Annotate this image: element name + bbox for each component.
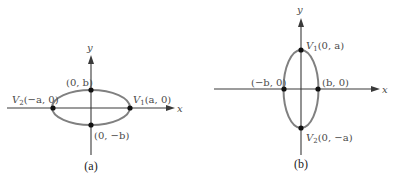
panel-a-x-label: x <box>177 103 183 114</box>
panel-a-x-arrow-icon <box>166 105 175 111</box>
panel-a-y-label: y <box>86 42 93 53</box>
panel-b-left-label: (−b, 0) <box>251 77 286 88</box>
panel-b-vertex-v1 <box>298 47 303 52</box>
panel-a-v1-label: V1(a, 0) <box>133 94 171 107</box>
svg-text:V1(0, a): V1(0, a) <box>306 40 344 53</box>
panel-a-bottom-label: (0, −b) <box>94 130 129 141</box>
panel-b-point-right <box>315 86 320 91</box>
panel-b-x-arrow-icon <box>371 86 380 92</box>
panel-b-right-label: (b, 0) <box>322 77 349 88</box>
panel-b-v1-label: V1(0, a) <box>306 40 344 53</box>
panel-a-vertex-v2 <box>50 105 55 110</box>
panel-a-caption: (a) <box>84 159 97 173</box>
panel-b-v2-label: V2(0, −a) <box>306 132 353 145</box>
panel-b-y-arrow-icon <box>298 18 304 27</box>
panel-b-vertex-v2 <box>298 125 303 130</box>
panel-a-point-bottom <box>88 122 93 127</box>
panel-b-x-label: x <box>382 84 388 95</box>
panel-a-y-arrow-icon <box>88 55 94 64</box>
panel-b: y x V1(0, a) V2(0, −a) (−b, 0) (b, 0) (b… <box>214 4 388 171</box>
svg-text:V1(a, 0): V1(a, 0) <box>133 94 171 107</box>
panel-a-vertex-v1 <box>127 105 132 110</box>
svg-text:V2(0, −a): V2(0, −a) <box>306 132 353 145</box>
panel-b-y-label: y <box>296 4 303 15</box>
ellipse-diagram: y x (0, b) (0, −b) V2(−a, 0) V1(a, 0) (a… <box>0 0 394 179</box>
panel-a: y x (0, b) (0, −b) V2(−a, 0) V1(a, 0) (a… <box>7 42 183 173</box>
panel-a-top-label: (0, b) <box>66 77 93 88</box>
panel-b-caption: (b) <box>294 157 308 171</box>
panel-a-point-top <box>88 87 93 92</box>
